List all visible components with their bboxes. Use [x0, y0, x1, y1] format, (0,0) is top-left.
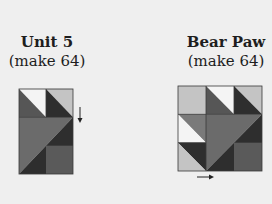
bp-small-square: [234, 143, 262, 171]
bear-paw-subtitle: (make 64): [166, 53, 272, 70]
unit5-subtitle: (make 64): [0, 53, 107, 70]
unit5-title: Unit 5: [0, 34, 107, 51]
bp-r1c1: [178, 86, 206, 114]
right-arrow-icon: [197, 174, 215, 180]
bear-paw-block: [178, 86, 262, 171]
unit5-small-square: [46, 146, 73, 174]
down-arrow-icon: [77, 107, 83, 124]
bear-paw-title: Bear Paw: [166, 34, 272, 51]
unit5-block: [19, 89, 73, 174]
